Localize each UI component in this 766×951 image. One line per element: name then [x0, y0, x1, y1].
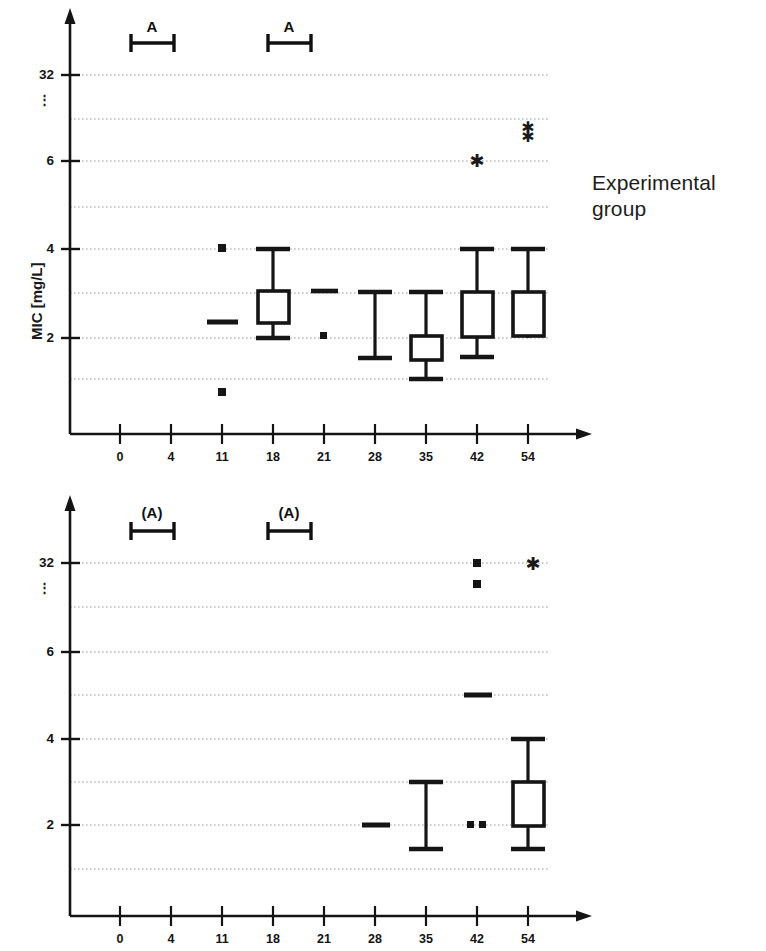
y-tick-label-6: 6 — [20, 153, 54, 168]
x-tick-label-0: 0 — [100, 450, 140, 464]
outlier-marker — [320, 332, 327, 339]
x-tick-label-18: 18 — [253, 932, 293, 946]
x-tick-label-21: 21 — [304, 450, 344, 464]
outlier-marker — [473, 580, 481, 588]
x-tick-label-4: 4 — [151, 932, 191, 946]
x-tick-label-54: 54 — [508, 932, 548, 946]
boxplot-35 — [409, 292, 443, 379]
control-group-panel: ✱ MIC [mg/L] 32 ⋮ 6 4 2 0 4 11 18 21 28 … — [0, 476, 766, 951]
significance-label-2: A — [259, 18, 319, 35]
x-tick-label-4: 4 — [151, 450, 191, 464]
boxplot-35 — [409, 782, 443, 849]
significance-bar-1 — [131, 522, 174, 540]
boxplot-42 — [460, 249, 494, 357]
y-tick-label-2: 2 — [20, 817, 54, 832]
outlier-marker — [218, 244, 226, 252]
y-tick-label-4: 4 — [20, 241, 54, 256]
y-tick-label-32: 32 — [20, 67, 54, 82]
significance-bar-1 — [131, 34, 174, 52]
y-axis-break-symbol: ⋮ — [34, 96, 54, 104]
boxplot-18 — [256, 249, 290, 338]
x-tick-label-35: 35 — [406, 450, 446, 464]
x-tick-label-42: 42 — [457, 932, 497, 946]
outlier-star: ✱ — [525, 553, 540, 574]
significance-label-1: A — [122, 18, 182, 35]
gridlines — [70, 563, 548, 869]
outlier-marker — [218, 388, 226, 396]
boxplot-54 — [511, 249, 545, 338]
experimental-group-label: Experimental group — [592, 170, 716, 222]
outlier-marker — [473, 559, 481, 567]
x-tick-label-28: 28 — [355, 450, 395, 464]
x-tick-label-0: 0 — [100, 932, 140, 946]
experimental-group-plot: ✱ ✱ ✱ — [0, 0, 766, 475]
y-axis-break-symbol: ⋮ — [34, 584, 54, 592]
y-tick-label-32: 32 — [20, 555, 54, 570]
x-tick-label-11: 11 — [202, 450, 242, 464]
x-tick-label-35: 35 — [406, 932, 446, 946]
x-tick-label-11: 11 — [202, 932, 242, 946]
outlier-star: ✱ — [469, 150, 484, 171]
x-tick-label-18: 18 — [253, 450, 293, 464]
y-tick-label-2: 2 — [20, 330, 54, 345]
y-axis-arrow — [65, 8, 76, 24]
boxplot-28 — [358, 292, 392, 358]
significance-label-2: (A) — [259, 504, 319, 521]
experimental-group-panel: ✱ ✱ ✱ MIC [mg/L] 32 ⋮ 6 4 2 0 4 11 18 21… — [0, 0, 766, 475]
x-tick-label-21: 21 — [304, 932, 344, 946]
y-axis-arrow — [65, 495, 76, 511]
y-axis-title: MIC [mg/L] — [28, 263, 45, 340]
x-tick-label-42: 42 — [457, 450, 497, 464]
outlier-marker — [467, 821, 474, 828]
significance-bar-2 — [268, 522, 311, 540]
x-tick-label-54: 54 — [508, 450, 548, 464]
outlier-star: ✱ — [521, 127, 534, 146]
significance-label-1: (A) — [122, 504, 182, 521]
x-axis-arrow — [576, 911, 592, 922]
x-tick-label-28: 28 — [355, 932, 395, 946]
control-group-plot: ✱ — [0, 476, 766, 951]
x-axis-arrow — [576, 429, 592, 440]
significance-bar-2 — [268, 34, 311, 52]
y-tick-label-6: 6 — [20, 644, 54, 659]
y-tick-label-4: 4 — [20, 731, 54, 746]
outlier-marker — [479, 821, 486, 828]
boxplot-54 — [511, 739, 545, 849]
